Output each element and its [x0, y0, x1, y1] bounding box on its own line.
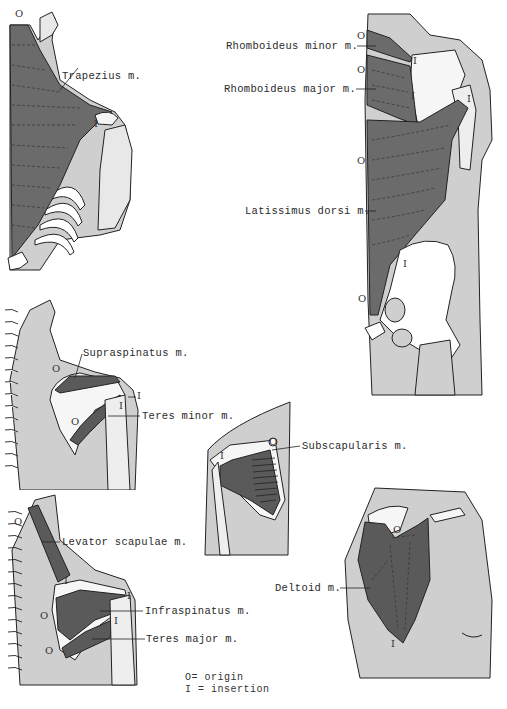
origin-mark-levator: O: [14, 516, 22, 527]
insertion-mark-infraspinatus: I: [127, 590, 131, 601]
legend-insertion: I = insertion: [185, 684, 270, 696]
levator-scapulae-label: Levator scapulae m.: [62, 536, 187, 548]
insertion-mark-teres-major: I: [114, 615, 118, 626]
origin-mark-deltoid: O: [393, 524, 401, 535]
insertion-mark-deltoid: I: [391, 638, 395, 649]
origin-mark-teres-major: O: [45, 645, 53, 656]
origin-mark-infraspinatus: O: [40, 610, 48, 621]
origin-mark-subscapularis: O: [269, 436, 277, 447]
deltoid-label: Deltoid m.: [275, 582, 341, 594]
origin-mark-supraspinatus: O: [52, 363, 60, 374]
subscapularis-label: Subscapularis m.: [302, 440, 408, 452]
insertion-mark-teres-minor: I: [119, 400, 123, 411]
supraspinatus-label: Supraspinatus m.: [83, 347, 189, 359]
legend: O= origin I = insertion: [185, 672, 270, 696]
origin-mark-teres-minor: O: [71, 416, 79, 427]
legend-origin: O= origin: [185, 672, 270, 684]
deltoid-illustration: [260, 480, 507, 709]
insertion-mark-supraspinatus: I: [137, 390, 141, 401]
insertion-mark-levator: I: [64, 575, 68, 586]
supraspinatus-illustration: [0, 290, 200, 490]
insertion-mark-subscapularis: I: [220, 450, 224, 461]
infraspinatus-label: Infraspinatus m.: [145, 605, 251, 617]
deltoid-panel: O I Deltoid m.: [260, 480, 507, 709]
teres-major-label: Teres major m.: [146, 633, 238, 645]
supraspinatus-panel: O O I I Supraspinatus m. Teres minor m.: [0, 290, 200, 490]
